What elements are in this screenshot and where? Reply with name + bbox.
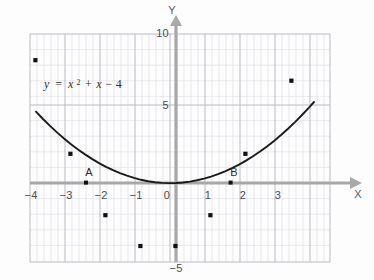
x-tick-label: −3 [59, 189, 72, 201]
data-point-marker [33, 58, 37, 62]
x-tick-label: −4 [24, 189, 37, 201]
parabola-graph: −4 −3 −2 −1 0 1 2 3 10 5 −5 X Y A B y = … [0, 0, 374, 280]
equation-minus: − [106, 77, 113, 91]
data-point-marker [68, 152, 72, 156]
data-point-marker [173, 244, 177, 248]
y-tick-label: −5 [169, 262, 182, 274]
y-axis-name: Y [168, 4, 176, 16]
x-tick-label: 0 [164, 189, 170, 201]
root-marker-a [84, 181, 88, 185]
figure-background [0, 0, 374, 280]
equation-x-squared: x [67, 77, 74, 91]
equation-x-term: x [95, 77, 102, 91]
data-point-marker [138, 244, 142, 248]
point-label-a: A [85, 166, 93, 178]
point-label-b: B [230, 166, 237, 178]
x-tick-label: −1 [129, 189, 142, 201]
equation-lhs: y [43, 77, 50, 91]
x-axis-name: X [354, 188, 362, 200]
y-tick-label: 5 [163, 99, 169, 111]
equation-plus: + [85, 77, 92, 91]
data-point-marker [208, 213, 212, 217]
x-tick-label: 3 [275, 189, 281, 201]
root-marker-b [229, 181, 233, 185]
equation-equals: = [55, 77, 62, 91]
x-tick-label: 2 [240, 189, 246, 201]
y-tick-label: 10 [156, 27, 169, 39]
data-point-marker [103, 213, 107, 217]
data-point-marker [289, 79, 293, 83]
equation-constant: 4 [116, 77, 122, 91]
data-point-marker [243, 152, 247, 156]
x-tick-label: −2 [94, 189, 107, 201]
equation-exponent: 2 [76, 78, 80, 87]
graph-figure: −4 −3 −2 −1 0 1 2 3 10 5 −5 X Y A B y = … [0, 0, 374, 280]
x-tick-label: 1 [205, 189, 211, 201]
